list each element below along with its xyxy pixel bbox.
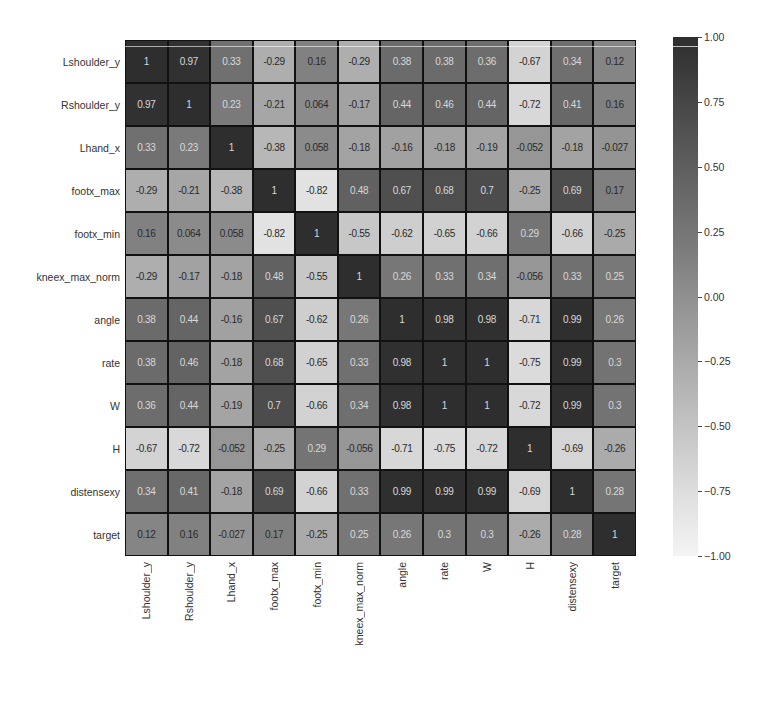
- correlation-heatmap-figure: Lshoulder_yRshoulder_yLhand_xfootx_maxfo…: [0, 0, 768, 701]
- heatmap-cell: 1: [552, 471, 593, 512]
- colorbar-tick-mark: [698, 37, 702, 38]
- heatmap-cell: -0.26: [594, 428, 635, 469]
- colorbar-tick-label: −0.50: [704, 420, 731, 432]
- colorbar-tick-label: 0.75: [704, 96, 724, 108]
- x-tick-label: target: [609, 562, 621, 589]
- colorbar-tick-label: −1.00: [704, 550, 731, 562]
- y-tick-label: W: [110, 400, 120, 412]
- heatmap-cell: 1: [211, 127, 252, 168]
- y-tick-label: H: [112, 443, 120, 455]
- heatmap-cell: -0.66: [296, 385, 337, 426]
- heatmap-cell: -0.16: [211, 299, 252, 340]
- heatmap-cell: 0.34: [552, 41, 593, 82]
- heatmap-cell: 0.17: [594, 170, 635, 211]
- heatmap-cell: 0.3: [594, 385, 635, 426]
- x-tick-label: Lshoulder_y: [140, 562, 152, 619]
- heatmap-cell: 0.29: [296, 428, 337, 469]
- heatmap-cell: 0.26: [381, 514, 422, 555]
- heatmap-cell: -0.29: [339, 41, 380, 82]
- heatmap-cell: 0.67: [381, 170, 422, 211]
- heatmap-cell: -0.69: [509, 471, 550, 512]
- heatmap-cell: 1: [296, 213, 337, 254]
- heatmap-cell: 0.99: [467, 471, 508, 512]
- heatmap-cell: 0.3: [424, 514, 465, 555]
- heatmap-cell: -0.19: [211, 385, 252, 426]
- heatmap-cell: -0.17: [169, 256, 210, 297]
- heatmap-cell: -0.29: [126, 170, 167, 211]
- heatmap-cell: 1: [169, 84, 210, 125]
- heatmap-cell: -0.82: [296, 170, 337, 211]
- heatmap-cell: 0.058: [296, 127, 337, 168]
- heatmap-cell: -0.66: [467, 213, 508, 254]
- heatmap-cell: -0.26: [509, 514, 550, 555]
- heatmap-cell: 0.3: [594, 342, 635, 383]
- heatmap-cell: -0.18: [339, 127, 380, 168]
- y-tick-label: footx_min: [74, 228, 120, 240]
- colorbar: [673, 37, 698, 556]
- heatmap-cell: -0.29: [126, 256, 167, 297]
- x-tick-label: distensexy: [566, 562, 578, 612]
- colorbar-tick-mark: [698, 102, 702, 103]
- heatmap-cell: 0.34: [339, 385, 380, 426]
- heatmap-cell: 0.38: [126, 342, 167, 383]
- heatmap-cell: -0.67: [509, 41, 550, 82]
- heatmap-cell: 0.99: [552, 385, 593, 426]
- heatmap-cell: 0.69: [254, 471, 295, 512]
- x-tick-label: H: [524, 562, 536, 570]
- heatmap-cell: 1: [424, 385, 465, 426]
- heatmap-cell: -0.18: [211, 471, 252, 512]
- heatmap-cell: 1: [126, 41, 167, 82]
- colorbar-tick-mark: [698, 491, 702, 492]
- heatmap-cell: 0.68: [254, 342, 295, 383]
- heatmap-cell: 0.99: [552, 342, 593, 383]
- heatmap-cell: 0.23: [169, 127, 210, 168]
- heatmap-cell: 0.26: [381, 256, 422, 297]
- heatmap-cell: -0.75: [424, 428, 465, 469]
- heatmap-cell: 0.26: [594, 299, 635, 340]
- heatmap-cell: 0.28: [552, 514, 593, 555]
- heatmap-cell: -0.027: [594, 127, 635, 168]
- heatmap-cell: 0.17: [254, 514, 295, 555]
- heatmap-cell: 0.68: [424, 170, 465, 211]
- heatmap-cell: -0.056: [509, 256, 550, 297]
- heatmap-cell: 0.26: [339, 299, 380, 340]
- heatmap-cell: 0.36: [467, 41, 508, 82]
- heatmap-cell: 0.46: [169, 342, 210, 383]
- heatmap-cell: 0.46: [424, 84, 465, 125]
- heatmap-cell: 0.12: [594, 41, 635, 82]
- y-tick-label: distensexy: [70, 486, 120, 498]
- colorbar-tick-label: −0.25: [704, 355, 731, 367]
- heatmap-cell: 0.44: [467, 84, 508, 125]
- heatmap-cell: 1: [509, 428, 550, 469]
- heatmap-cell: -0.16: [381, 127, 422, 168]
- heatmap-artifact-line: [125, 46, 636, 47]
- heatmap-cell: 0.064: [169, 213, 210, 254]
- heatmap-cell: 0.98: [424, 299, 465, 340]
- heatmap-cell: -0.62: [381, 213, 422, 254]
- heatmap-cell: -0.25: [296, 514, 337, 555]
- heatmap-cell: 0.064: [296, 84, 337, 125]
- x-tick-label: Rshoulder_y: [183, 562, 195, 621]
- x-tick-label: kneex_max_norm: [353, 562, 365, 645]
- heatmap-cell: -0.65: [296, 342, 337, 383]
- heatmap-cell: -0.72: [169, 428, 210, 469]
- heatmap-cell: 0.7: [254, 385, 295, 426]
- heatmap-cell: -0.75: [509, 342, 550, 383]
- heatmap-cell: 0.33: [126, 127, 167, 168]
- heatmap-cell: -0.052: [509, 127, 550, 168]
- heatmap-cell: 0.34: [126, 471, 167, 512]
- x-tick-label: footx_max: [268, 562, 280, 610]
- heatmap-cell: -0.55: [296, 256, 337, 297]
- heatmap-cell: -0.38: [254, 127, 295, 168]
- heatmap-cell: 0.38: [424, 41, 465, 82]
- heatmap-cell: 0.16: [594, 84, 635, 125]
- heatmap-cell: -0.19: [467, 127, 508, 168]
- heatmap-cell: -0.62: [296, 299, 337, 340]
- heatmap-cell: 0.98: [467, 299, 508, 340]
- heatmap-cell: 0.33: [552, 256, 593, 297]
- heatmap-cell: -0.38: [211, 170, 252, 211]
- colorbar-tick-label: 0.25: [704, 226, 724, 238]
- heatmap-cell: -0.18: [552, 127, 593, 168]
- x-tick-label: rate: [438, 562, 450, 580]
- heatmap-cell: -0.82: [254, 213, 295, 254]
